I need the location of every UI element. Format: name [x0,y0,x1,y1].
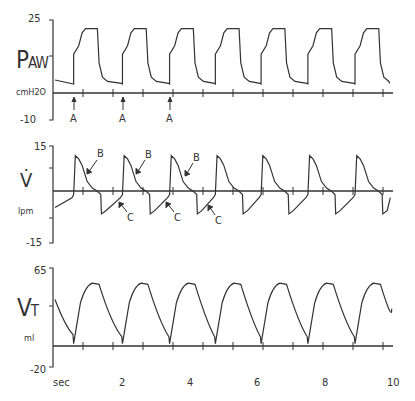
traces [55,29,392,344]
axes [49,20,393,367]
annotation-arrows [72,97,215,215]
waveform-plot [0,0,415,401]
